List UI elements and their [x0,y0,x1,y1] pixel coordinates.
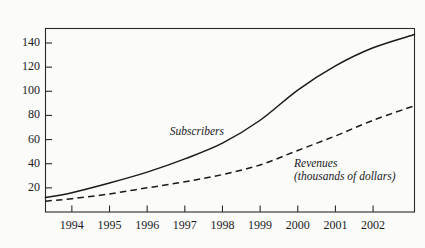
chart-figure: Millions 20406080100120140 1994199519961… [0,0,425,248]
series-annotation-subscribers: Subscribers [170,125,224,138]
series-annotation-revenues: Revenues (thousands of dollars) [294,157,396,183]
series-annotation-revenues-line1: Revenues [294,157,396,170]
x-axis-tick-label: 2002 [348,218,398,233]
y-axis-tick-label: 80 [4,107,40,122]
y-axis-tick-label: 120 [4,59,40,74]
y-axis-tick-label: 140 [4,35,40,50]
chart-canvas [0,0,425,248]
series-annotation-revenues-line2: (thousands of dollars) [294,170,396,183]
y-axis-tick-label: 40 [4,156,40,171]
y-axis-tick-label: 60 [4,132,40,147]
y-axis-tick-label: 20 [4,180,40,195]
chart-background [0,0,425,248]
y-axis-tick-label: 100 [4,83,40,98]
